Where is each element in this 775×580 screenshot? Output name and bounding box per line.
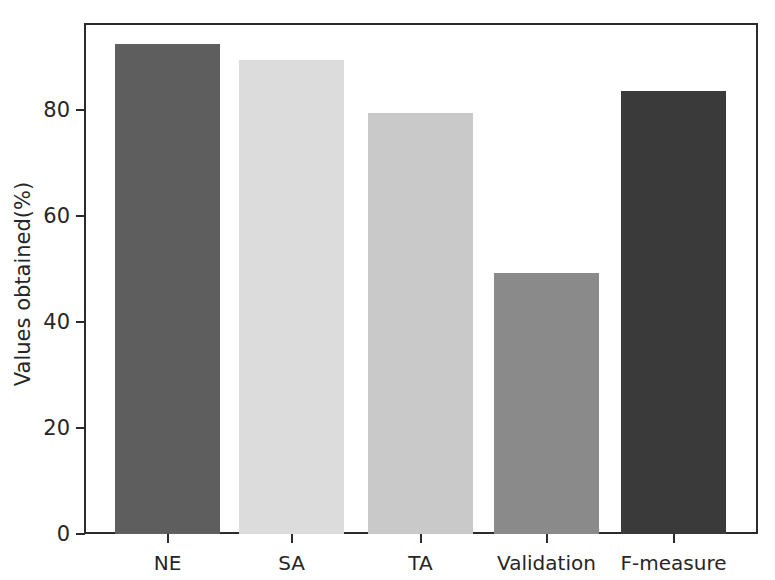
bar-f-measure xyxy=(621,91,726,534)
x-tick-mark xyxy=(546,534,548,543)
bars-layer xyxy=(86,25,756,534)
y-tick-mark xyxy=(76,321,85,323)
y-tick-mark xyxy=(76,215,85,217)
x-tick-mark xyxy=(673,534,675,543)
y-tick-label: 0 xyxy=(10,524,70,545)
x-tick-label: SA xyxy=(278,551,305,575)
x-tick-mark xyxy=(291,534,293,543)
y-axis-title: Values obtained(%) xyxy=(11,134,35,434)
y-tick-mark xyxy=(76,427,85,429)
y-tick-mark xyxy=(76,109,85,111)
y-tick-label: 80 xyxy=(10,100,70,121)
y-tick-mark xyxy=(76,533,85,535)
x-tick-label: F-measure xyxy=(621,551,727,575)
bar-sa xyxy=(239,60,344,534)
bar-chart-figure: 806040200 Values obtained(%) NESATAValid… xyxy=(0,0,775,580)
x-tick-label: Validation xyxy=(497,551,596,575)
bar-ne xyxy=(115,44,220,534)
x-tick-mark xyxy=(167,534,169,543)
bar-validation xyxy=(494,273,599,534)
x-tick-label: TA xyxy=(408,551,432,575)
x-tick-label: NE xyxy=(154,551,182,575)
x-tick-mark xyxy=(420,534,422,543)
bar-ta xyxy=(368,113,473,534)
